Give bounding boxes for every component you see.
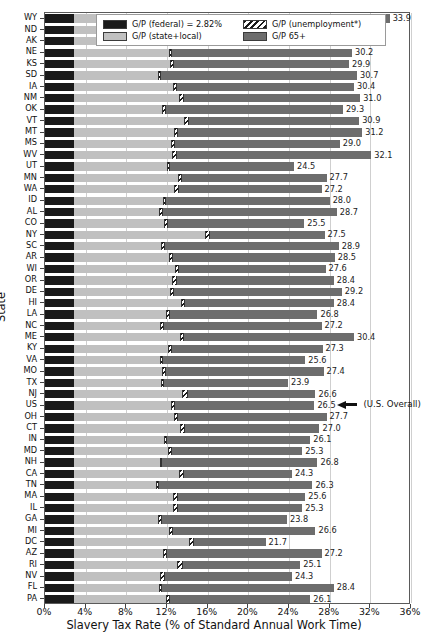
- bar-value-label: 28.5: [338, 252, 356, 263]
- bar-value-label: 27.3: [326, 343, 344, 354]
- y-tick-mark: [40, 97, 44, 98]
- bar-segment-federal: [45, 447, 74, 455]
- bar-row: 31.2: [45, 127, 409, 138]
- bar-segment-g65: [164, 322, 321, 330]
- bar-segment-state-local: [74, 413, 175, 421]
- bar-segment-federal: [45, 265, 74, 273]
- y-tick-id: ID: [28, 194, 37, 205]
- bar-segment-federal: [45, 60, 74, 68]
- y-tick-ks: KS: [26, 58, 37, 69]
- y-tick-hi: HI: [28, 297, 37, 308]
- y-tick-mark: [40, 257, 44, 258]
- bar-value-label: 27.4: [327, 366, 345, 377]
- bar-row: 26.1: [45, 434, 409, 445]
- y-tick-ut: UT: [26, 160, 37, 171]
- bar-row: 27.0: [45, 423, 409, 434]
- y-tick-fl: FL: [28, 581, 37, 592]
- stacked-bar-id: [45, 197, 330, 205]
- legend-swatch-g65-icon: [243, 32, 267, 41]
- y-tick-ct: CT: [26, 422, 37, 433]
- y-tick-mark: [40, 553, 44, 554]
- y-tick-mark: [40, 245, 44, 246]
- y-tick-mark: [40, 177, 44, 178]
- bar-value-label: 29.2: [345, 286, 363, 297]
- bar-value-label: 25.6: [308, 491, 326, 502]
- y-tick-mark: [40, 188, 44, 189]
- bar-row: 27.6: [45, 263, 409, 274]
- stacked-bar-ky: [45, 345, 323, 353]
- y-tick-wy: WY: [24, 12, 37, 23]
- bar-value-label: 30.4: [357, 332, 375, 343]
- bar-segment-state-local: [74, 83, 174, 91]
- legend-label-g65: G/P 65+: [272, 31, 306, 41]
- stacked-bar-ne: [45, 49, 352, 57]
- legend-swatch-unemployment-icon: [243, 20, 267, 29]
- stacked-bar-nc: [45, 322, 322, 330]
- bar-segment-federal: [45, 367, 74, 375]
- bar-segment-state-local: [74, 299, 182, 307]
- legend-item-federal: G/P (federal) = 2.82%: [103, 19, 239, 29]
- stacked-bar-or: [45, 276, 334, 284]
- bar-row: 28.4: [45, 582, 409, 593]
- bar-segment-federal: [45, 185, 74, 193]
- y-tick-or: OR: [25, 274, 37, 285]
- stacked-bar-ny: [45, 231, 325, 239]
- y-tick-mark: [40, 336, 44, 337]
- y-tick-mark: [40, 371, 44, 372]
- bar-segment-state-local: [74, 493, 174, 501]
- bar-row: 27.3: [45, 343, 409, 354]
- y-tick-mark: [40, 462, 44, 463]
- bar-value-label: 26.6: [318, 525, 336, 536]
- stacked-bar-ok: [45, 105, 343, 113]
- bar-segment-g65: [168, 219, 304, 227]
- stacked-bar-pa: [45, 595, 310, 603]
- chart-legend: G/P (federal) = 2.82% G/P (unemployment*…: [96, 14, 386, 46]
- stacked-bar-ca: [45, 470, 292, 478]
- stacked-bar-va: [45, 356, 305, 364]
- bar-segment-state-local: [74, 527, 170, 535]
- bar-segment-federal: [45, 322, 74, 330]
- stacked-bar-wv: [45, 151, 371, 159]
- bar-value-label: 26.6: [318, 389, 336, 400]
- y-tick-mark: [40, 223, 44, 224]
- bar-segment-federal: [45, 253, 74, 261]
- bar-value-label: 29.9: [352, 59, 370, 70]
- stacked-bar-nh: [45, 458, 317, 466]
- stacked-bar-mn: [45, 174, 327, 182]
- bar-row: 25.6: [45, 491, 409, 502]
- y-tick-mark: [40, 75, 44, 76]
- bar-segment-g65: [179, 185, 321, 193]
- bar-segment-federal: [45, 493, 74, 501]
- bar-row: 26.8: [45, 309, 409, 320]
- bar-value-label: 27.5: [328, 229, 346, 240]
- y-tick-va: VA: [26, 354, 37, 365]
- bar-value-label: 26.8: [320, 457, 338, 468]
- bar-segment-state-local: [74, 595, 167, 603]
- y-tick-ia: IA: [29, 81, 37, 92]
- bar-segment-g65: [161, 71, 357, 79]
- bar-value-label: 30.9: [362, 115, 380, 126]
- y-tick-me: ME: [25, 331, 37, 342]
- stacked-bar-al: [45, 208, 337, 216]
- bar-value-label: 31.2: [365, 127, 383, 138]
- bar-row: 26.8: [45, 457, 409, 468]
- stacked-bar-ar: [45, 253, 335, 261]
- y-tick-ar: AR: [26, 251, 37, 262]
- bar-segment-state-local: [74, 94, 180, 102]
- bar-segment-state-local: [74, 538, 189, 546]
- y-tick-mark: [40, 200, 44, 201]
- bar-segment-g65: [178, 504, 302, 512]
- y-tick-mark: [40, 109, 44, 110]
- stacked-bar-az: [45, 549, 322, 557]
- bar-segment-state-local: [74, 504, 174, 512]
- bar-segment-g65: [162, 584, 334, 592]
- y-tick-mark: [40, 325, 44, 326]
- bar-row: 28.0: [45, 195, 409, 206]
- bar-segment-federal: [45, 470, 74, 478]
- bar-value-label: 24.3: [295, 571, 313, 582]
- bar-segment-g65: [167, 549, 321, 557]
- bar-segment-g65: [175, 401, 314, 409]
- stacked-bar-mo: [45, 367, 324, 375]
- y-tick-mark: [40, 484, 44, 485]
- y-tick-nv: NV: [25, 570, 37, 581]
